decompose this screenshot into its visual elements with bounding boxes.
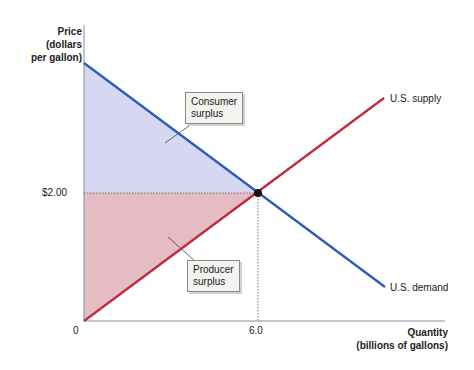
y-tick-label: $2.00 [42,187,67,198]
x-axis-label-line1: Quantity [356,326,448,339]
consumer-surplus-line1: Consumer [191,96,237,108]
producer-surplus-callout: Producer surplus [187,260,240,292]
origin-label: 0 [73,325,79,336]
supply-label: U.S. supply [390,93,441,104]
x-axis-label: Quantity (billions of gallons) [356,326,448,352]
y-axis-label-line3: per gallon) [31,51,82,64]
y-axis-label-line2: (dollars [31,38,82,51]
x-axis-label-line2: (billions of gallons) [356,339,448,352]
consumer-surplus-line2: surplus [191,108,237,120]
producer-surplus-line1: Producer [193,264,234,276]
y-axis-label-line1: Price [31,25,82,38]
demand-label: U.S. demand [390,282,448,293]
x-tick-label: 6.0 [249,325,263,336]
producer-surplus-line2: surplus [193,276,234,288]
equilibrium-point [254,189,262,197]
y-axis-label: Price (dollars per gallon) [31,25,82,64]
consumer-surplus-callout: Consumer surplus [185,92,243,124]
